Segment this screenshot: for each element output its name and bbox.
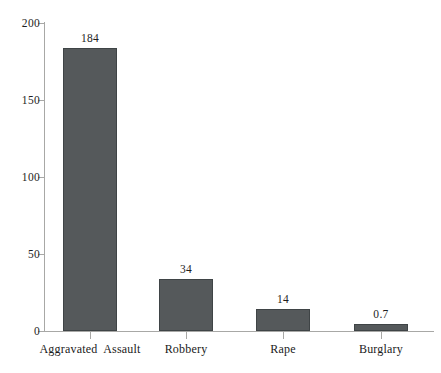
- x-tick-mark: [186, 332, 187, 339]
- plot-area: 0 50 100 150 200 184 34 14 0.7 Aggravate…: [0, 0, 441, 373]
- y-tick-label-200: 200: [22, 18, 40, 30]
- bar-robbery[interactable]: [159, 279, 213, 331]
- bar-burglary[interactable]: [354, 324, 408, 331]
- x-tick-mark: [381, 332, 382, 339]
- bar-rape[interactable]: [256, 309, 310, 331]
- x-axis-label-robbery: Robbery: [136, 343, 236, 355]
- bar-aggravated-assault[interactable]: [63, 48, 117, 331]
- x-axis-label-burglary: Burglary: [331, 343, 431, 355]
- bar-value-robbery: 34: [159, 264, 213, 276]
- x-tick-mark: [283, 332, 284, 339]
- y-tick-label-0: 0: [34, 326, 40, 338]
- y-tick-label-150: 150: [22, 95, 40, 107]
- x-tick-mark: [90, 332, 91, 339]
- y-tick-label-50: 50: [28, 249, 40, 261]
- y-tick-label-100: 100: [22, 172, 40, 184]
- bar-value-rape: 14: [256, 294, 310, 306]
- bar-value-aggravated-assault: 184: [63, 33, 117, 45]
- x-axis-label-rape: Rape: [233, 343, 333, 355]
- bar-value-burglary: 0.7: [354, 309, 408, 321]
- x-axis-line: [44, 331, 434, 332]
- bar-chart: 0 50 100 150 200 184 34 14 0.7 Aggravate…: [0, 0, 441, 373]
